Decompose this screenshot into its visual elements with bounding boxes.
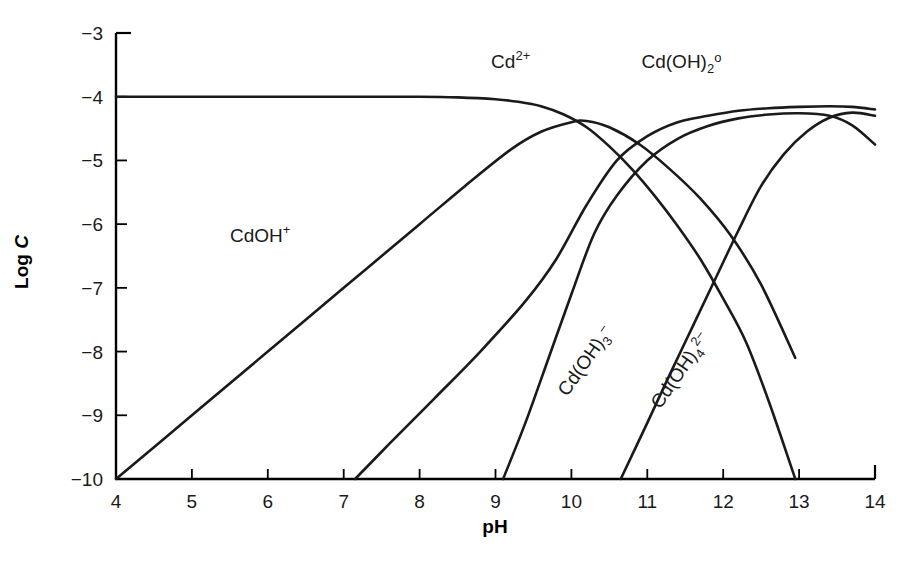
curve-label-base: Cd(OH) — [641, 51, 706, 72]
y-axis-title: Log C — [11, 235, 32, 289]
y-tick-label: −10 — [71, 469, 103, 490]
curve-label-cdoh-: CdOH+ — [230, 222, 290, 246]
y-tick-label: −3 — [81, 23, 103, 44]
x-axis-title: pH — [482, 516, 507, 537]
chart-background — [0, 0, 914, 566]
x-tick-label: 9 — [490, 491, 501, 512]
curve-label-superscript: 2+ — [515, 48, 530, 63]
curve-label-superscript: + — [283, 222, 291, 237]
curve-label-base: CdOH — [230, 225, 283, 246]
x-tick-label: 8 — [414, 491, 425, 512]
curve-label-subscript: 2 — [707, 61, 714, 76]
x-tick-label: 6 — [263, 491, 274, 512]
speciation-diagram: 4567891011121314 −3−4−5−6−7−8−9−10 Cd2+C… — [0, 0, 914, 566]
x-tick-label: 4 — [111, 491, 122, 512]
y-tick-label: −4 — [81, 87, 103, 108]
x-tick-label: 12 — [713, 491, 734, 512]
x-tick-label: 11 — [637, 491, 657, 512]
y-tick-label: −5 — [81, 150, 103, 171]
curve-label-base: Cd — [491, 51, 515, 72]
y-axis-title-italic: C — [11, 235, 32, 249]
y-tick-label: −7 — [81, 278, 103, 299]
y-tick-label: −9 — [81, 405, 103, 426]
x-tick-label: 13 — [789, 491, 810, 512]
chart-root: 4567891011121314 −3−4−5−6−7−8−9−10 Cd2+C… — [0, 0, 914, 566]
y-tick-label: −6 — [81, 214, 103, 235]
y-tick-label: −8 — [81, 342, 103, 363]
x-tick-label: 7 — [338, 491, 349, 512]
y-axis-title-main: Log — [11, 249, 32, 289]
curve-label-superscript: o — [714, 50, 721, 65]
x-tick-label: 5 — [187, 491, 198, 512]
x-tick-label: 14 — [864, 491, 886, 512]
x-tick-label: 10 — [561, 491, 582, 512]
